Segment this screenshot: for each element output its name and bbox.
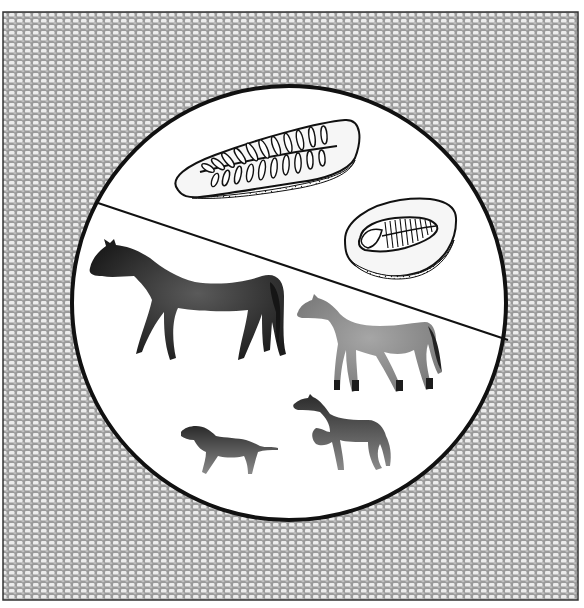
- illustration-svg: [0, 0, 584, 608]
- illustration-canvas: [0, 0, 584, 608]
